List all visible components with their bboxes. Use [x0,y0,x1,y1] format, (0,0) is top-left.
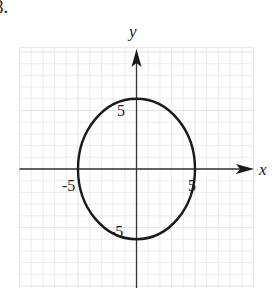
x-tick-label-neg5: -5 [62,177,75,194]
ellipse-graph-figure: 8. x y -5 5 5 -5 [0,0,272,288]
y-axis-label: y [127,22,137,41]
y-tick-label-5: 5 [117,102,125,119]
x-axis-label: x [258,160,267,179]
coordinate-plane: x y -5 5 5 -5 [0,0,272,288]
problem-number: 8. [0,0,8,18]
x-tick-label-5: 5 [188,177,196,194]
y-tick-label-neg5: -5 [110,223,123,240]
